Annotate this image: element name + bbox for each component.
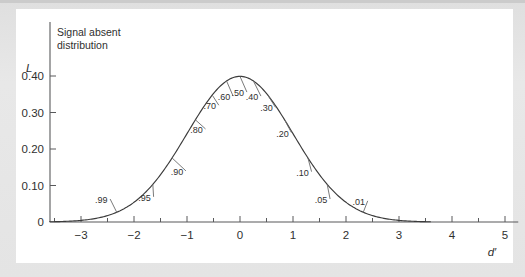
x-axis-label: d′ [488,246,497,258]
criterion-annotation-label: .20 [276,129,289,139]
y-axis-tick-label: 0.20 [22,143,44,155]
criterion-annotation-label: .80 [190,125,203,135]
chart-generated-layer: 00.100.200.300.40−3−2−1012345.99.95.90.8… [22,22,519,241]
chart-title-line2: distribution [57,39,108,51]
x-axis-tick-label: 3 [396,229,402,241]
x-axis-tick-label: 5 [502,229,508,241]
y-axis-tick-label: 0.10 [22,180,44,192]
criterion-annotation-label: .50 [232,88,245,98]
x-axis-tick-label: 2 [343,229,349,241]
criterion-annotation-label: .70 [204,101,217,111]
signal-detection-chart: 00.100.200.300.40−3−2−1012345.99.95.90.8… [0,0,525,277]
criterion-annotation-label: .95 [138,193,151,203]
criterion-annotation-label: .90 [171,167,184,177]
y-axis-tick-label: 0 [38,216,44,228]
criterion-annotation-label: .30 [260,103,273,113]
criterion-annotation-label: .60 [218,92,231,102]
criterion-annotation-label: .01 [352,197,365,207]
criterion-leader-line [110,199,117,212]
x-axis-tick-label: −3 [74,229,87,241]
y-axis-tick-label: 0.40 [22,70,44,82]
x-axis-tick-label: 4 [449,229,456,241]
figure-root: 00.100.200.300.40−3−2−1012345.99.95.90.8… [0,0,525,277]
chart-title-line1: Signal absent [57,26,121,38]
x-axis-tick-label: 0 [237,229,243,241]
x-axis-tick-label: 1 [290,229,296,241]
criterion-annotation-label: .40 [246,92,259,102]
criterion-leader-line [153,184,154,196]
x-axis-tick-label: −1 [180,229,193,241]
criterion-annotation-label: .10 [296,168,309,178]
y-axis-label: L [26,62,32,74]
y-axis-tick-label: 0.30 [22,107,44,119]
x-axis-tick-label: −2 [127,229,140,241]
criterion-annotation-label: .05 [315,195,328,205]
criterion-annotation-label: .99 [95,195,108,205]
